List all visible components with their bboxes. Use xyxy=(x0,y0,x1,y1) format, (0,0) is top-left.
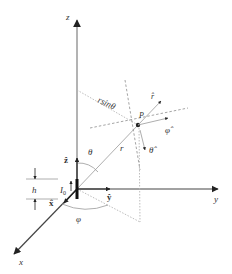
phi-hat-label: φ̂ xyxy=(165,125,174,135)
z-hat-label: ẑ xyxy=(64,155,68,165)
z-axis-label: z xyxy=(65,12,70,22)
radius-line xyxy=(77,125,138,189)
dipole-spherical-coordinates-diagram: z y x r rsinθ P r̂ φ̂ θ̂ θ φ ẑ ŷ x̂ I0 xyxy=(0,0,232,274)
y-hat-label: ŷ xyxy=(107,192,112,202)
h-label: h xyxy=(32,185,37,195)
theta-hat-label: θ̂ xyxy=(149,145,157,155)
current-label: I0 xyxy=(59,185,66,196)
phi-label: φ xyxy=(76,214,81,224)
x-hat-label: x̂ xyxy=(49,198,54,208)
phi-arc xyxy=(62,204,108,209)
point-p-label: P xyxy=(138,111,144,120)
rsin-theta-label: rsinθ xyxy=(96,95,117,112)
theta-label: θ xyxy=(88,147,93,157)
x-axis-label: x xyxy=(18,257,23,267)
r-hat-label: r̂ xyxy=(151,92,155,101)
radius-label: r xyxy=(120,143,124,153)
y-axis-label: y xyxy=(213,194,218,204)
theta-hat-vector xyxy=(140,130,145,150)
current-subscript: 0 xyxy=(63,190,66,196)
dipole-element xyxy=(76,179,79,199)
projection-vertical xyxy=(139,125,140,222)
